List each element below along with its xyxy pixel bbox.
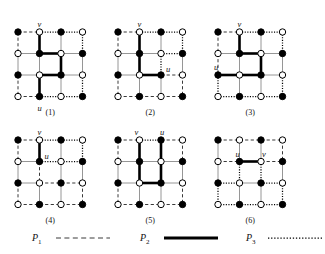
graph-vertex-open [136,29,142,35]
graph-vertex-filled [279,201,285,207]
graph-vertex-filled [215,137,221,143]
graph-vertex-filled [36,201,42,207]
graph-vertex-filled [115,180,121,186]
graph-vertex-open [115,93,121,99]
vertex-label-u: u [166,64,170,74]
graph-vertex-filled [58,29,64,35]
graph-vertex-open [79,180,85,186]
graph-vertex-open [136,72,142,78]
legend-label-subscript: 3 [252,238,256,246]
graph-vertex-filled [179,50,185,56]
panel-number-label: (2) [146,108,156,117]
graph-vertex-open [215,50,221,56]
graph-vertex-filled [115,72,121,78]
graph-vertex-open [58,93,64,99]
graph-vertex-open [158,158,164,164]
graph-vertex-open [58,201,64,207]
graph-vertex-filled [236,158,242,164]
vertex-label-u: u [44,151,48,161]
graph-vertex-open [58,158,64,164]
graph-vertex-open [15,93,21,99]
graph-vertex-open [136,137,142,143]
graph-vertex-open [158,93,164,99]
vertex-label-v: v [38,127,42,137]
vertex-label-u: u [37,103,41,113]
graph-vertex-open [215,93,221,99]
panel-6: uv(6) [215,137,286,225]
graph-vertex-open [36,137,42,143]
vertex-label-v: v [238,19,242,29]
graph-vertex-filled [79,93,85,99]
graph-vertex-filled [215,29,221,35]
graph-vertex-open [279,180,285,186]
graph-vertex-filled [158,180,164,186]
graph-vertex-open [158,50,164,56]
graph-vertex-filled [36,158,42,164]
legend-p1: P1 [31,232,110,246]
graph-vertex-open [15,50,21,56]
graph-vertex-filled [279,93,285,99]
graph-vertex-open [279,137,285,143]
graph-vertex-filled [58,72,64,78]
graph-vertex-filled [236,201,242,207]
panel-number-label: (6) [246,216,256,225]
graph-vertex-open [115,201,121,207]
graph-vertex-filled [36,93,42,99]
legend-p2: P2 [139,232,218,246]
graph-vertex-filled [236,93,242,99]
panel-2: vu(2) [115,19,186,117]
vertex-label-u: u [235,149,239,159]
graph-vertex-filled [15,72,21,78]
graph-vertex-filled [179,93,185,99]
vertex-label-v: v [38,19,42,29]
grid-graph-figure: vu(1)vu(2)vu(3)vu(4)vu(5)uv(6)P1P2P3 [0,0,325,254]
graph-vertex-open [158,201,164,207]
graph-vertex-open [136,180,142,186]
panel-4: vu(4) [15,127,86,225]
graph-vertex-open [115,50,121,56]
graph-vertex-open [179,180,185,186]
graph-vertex-filled [158,29,164,35]
legend-label-subscript: 2 [146,238,150,246]
panel-number-label: (4) [46,216,56,225]
legend-label-base: P2 [139,232,150,246]
graph-vertex-open [236,29,242,35]
panel-3: vu(3) [214,19,286,117]
graph-vertex-open [79,137,85,143]
graph-vertex-open [236,72,242,78]
panel-number-label: (5) [146,216,156,225]
graph-vertex-open [115,158,121,164]
graph-vertex-open [58,50,64,56]
graph-vertex-filled [136,201,142,207]
graph-vertex-filled [158,137,164,143]
graph-vertex-open [36,72,42,78]
graph-vertex-filled [179,158,185,164]
graph-vertex-open [279,29,285,35]
graph-vertex-filled [115,29,121,35]
graph-vertex-open [179,137,185,143]
graph-vertex-open [236,137,242,143]
graph-vertex-filled [279,158,285,164]
vertex-label-v: v [135,127,139,137]
panel-number-label: (3) [246,108,256,117]
vertex-label-v: v [262,149,266,159]
graph-vertex-open [258,201,264,207]
graph-vertex-filled [36,50,42,56]
figure-container: vu(1)vu(2)vu(3)vu(4)vu(5)uv(6)P1P2P3 [0,0,325,254]
graph-vertex-filled [179,201,185,207]
graph-vertex-filled [79,158,85,164]
legend-label-base: P3 [245,232,256,246]
graph-vertex-open [215,158,221,164]
graph-vertex-open [15,158,21,164]
graph-vertex-filled [15,137,21,143]
graph-vertex-filled [215,72,221,78]
graph-vertex-filled [79,201,85,207]
graph-vertex-filled [258,72,264,78]
graph-vertex-filled [58,180,64,186]
graph-vertex-open [36,180,42,186]
graph-vertex-filled [215,180,221,186]
graph-vertex-open [258,158,264,164]
graph-vertex-filled [15,29,21,35]
vertex-label-v: v [138,19,142,29]
graph-vertex-filled [79,50,85,56]
